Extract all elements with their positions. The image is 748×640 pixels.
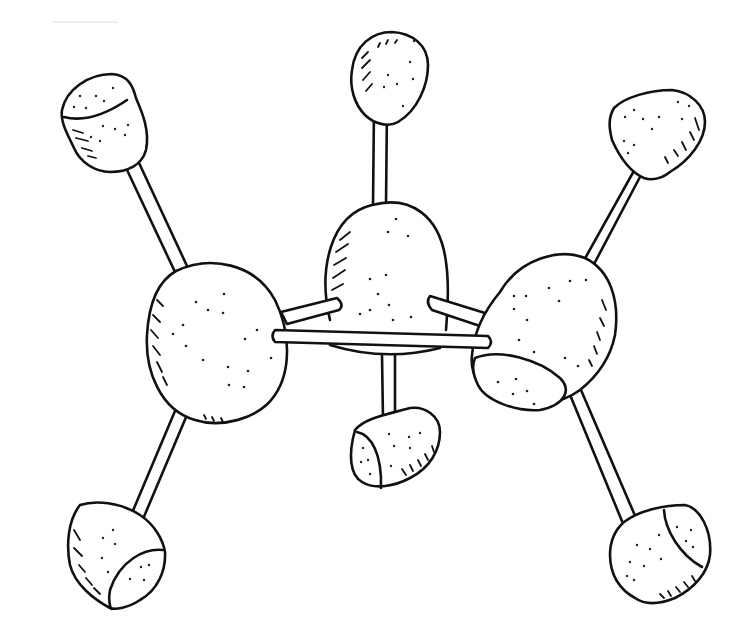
carbon-atom-left (147, 263, 287, 423)
bond-c1-c3-front (273, 330, 492, 348)
molecule-model-diagram (0, 0, 748, 640)
hydrogen-atom-lower-left (68, 502, 165, 609)
hydrogen-atom-lower-right (610, 505, 710, 603)
hydrogen-atom-upper-left (62, 74, 147, 172)
hydrogen-atom-top (351, 32, 428, 125)
hydrogen-atom-upper-right (610, 90, 705, 179)
hydrogen-atom-bottom (351, 408, 440, 488)
bond-c3-h6 (566, 380, 636, 526)
carbon-atom-right (472, 254, 617, 410)
